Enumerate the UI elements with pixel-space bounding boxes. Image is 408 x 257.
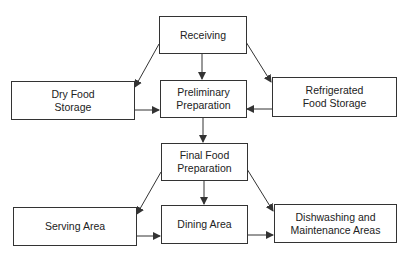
node-receiving: Receiving <box>159 16 247 54</box>
node-prelim-label-1: Preliminary <box>177 86 230 99</box>
node-refrig-label-2: Food Storage <box>303 97 367 110</box>
node-preliminary-preparation: Preliminary Preparation <box>160 80 247 118</box>
node-prelim-label-2: Preparation <box>176 99 230 112</box>
node-final-label-2: Preparation <box>177 162 231 175</box>
node-dry-label-1: Dry Food <box>51 88 94 101</box>
node-final-label-1: Final Food <box>180 149 230 162</box>
edge-receiving-dry <box>135 44 159 87</box>
node-refrigerated-food-storage: Refrigerated Food Storage <box>272 77 397 117</box>
node-dry-label-2: Storage <box>55 101 92 114</box>
node-final-food-preparation: Final Food Preparation <box>161 143 248 181</box>
node-receiving-label: Receiving <box>180 29 226 42</box>
node-refrig-label-1: Refrigerated <box>306 84 364 97</box>
node-dishwashing-maintenance: Dishwashing and Maintenance Areas <box>274 204 397 243</box>
node-dish-label-1: Dishwashing and <box>296 211 376 224</box>
edge-final-dish <box>247 169 273 211</box>
node-dry-food-storage: Dry Food Storage <box>11 81 135 120</box>
edge-receiving-refrig <box>246 42 271 82</box>
node-dining-area: Dining Area <box>161 205 248 244</box>
node-serving-area: Serving Area <box>13 207 137 246</box>
edge-final-serving <box>137 172 161 214</box>
node-dish-label-2: Maintenance Areas <box>291 224 381 237</box>
node-serving-label: Serving Area <box>45 220 105 233</box>
node-dining-label: Dining Area <box>177 218 231 231</box>
